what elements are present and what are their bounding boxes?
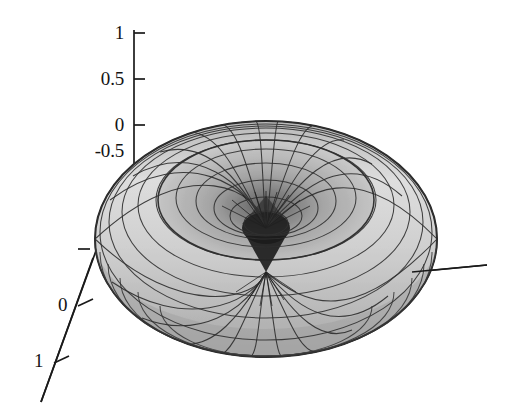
z-axis-tick-label-neg-0-5: -0.5	[74, 141, 124, 160]
diagonal-front-axis-visible	[41, 258, 93, 402]
z-axis-tick-label-1: 1	[104, 23, 124, 42]
front-axis-tick-label-1: 1	[34, 351, 43, 370]
horn-torus-surface	[95, 121, 437, 357]
front-axis-tick-label-0: 0	[58, 295, 67, 314]
torus-plot-canvas	[0, 0, 516, 420]
torus-plot-figure: 1 0.5 0 -0.5 0 1	[0, 0, 516, 420]
z-axis-tick-label-0-5: 0.5	[88, 69, 124, 88]
diagonal-axis-tick-0	[78, 299, 93, 306]
z-axis-tick-label-0: 0	[104, 115, 124, 134]
